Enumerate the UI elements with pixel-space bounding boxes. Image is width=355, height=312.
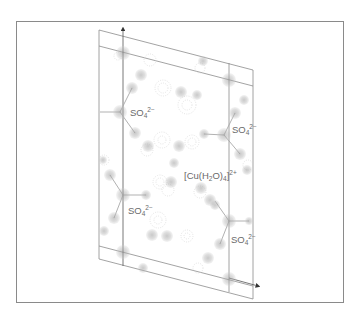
figure-frame: [17, 22, 344, 303]
label-subscript: 4: [245, 239, 249, 246]
label-base: SO: [130, 107, 144, 118]
label-subscript: 4: [142, 210, 146, 217]
label-base: SO: [232, 124, 246, 135]
label-copper-complex: [Cu(H2O)4]2+: [184, 170, 237, 183]
label-base: SO: [231, 234, 245, 245]
crystal-structure-figure: SO42− SO42− [Cu(H2O)4]2+ SO42− SO42−: [0, 0, 355, 312]
label-superscript: 2−: [248, 233, 255, 240]
label-subscript: 4: [144, 112, 148, 119]
label-sulfate-bottom-left: SO42−: [128, 205, 153, 218]
label-sulfate-bottom-right: SO42−: [231, 234, 256, 247]
atoms: [99, 46, 253, 286]
label-sulfate-top-right: SO42−: [232, 124, 257, 137]
label-base: [Cu(H: [184, 170, 209, 181]
label-superscript: 2−: [249, 123, 256, 130]
label-base: SO: [128, 205, 142, 216]
label-subscript: 4: [246, 129, 250, 136]
label-superscript: 2+: [229, 169, 236, 176]
label-superscript: 2−: [147, 106, 154, 113]
label-sulfate-top-left: SO42−: [130, 107, 155, 120]
label-superscript: 2−: [145, 204, 152, 211]
label-base: O): [212, 170, 223, 181]
diagram-canvas: [0, 0, 355, 312]
